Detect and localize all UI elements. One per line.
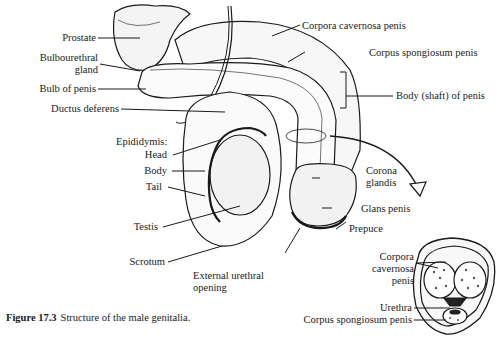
label-prepuce: Prepuce [349,223,383,235]
label-bulbourethral-line2: gland [40,64,98,76]
label-corona-line2: glandis [366,177,397,189]
label-epididymis: Epididymis: [116,136,167,148]
label-corona-line1: Corona [366,165,397,177]
label-xs-corpora-line1: Corpora [372,251,414,263]
label-ductus-deferens: Ductus deferens [51,103,119,115]
label-corpus-spongiosum-penis: Corpus spongiosum penis [369,47,478,59]
label-xs-corpus-spongiosum-penis: Corpus spongiosum penis [303,314,412,326]
label-bulbourethral-gland: Bulbourethral gland [40,52,98,76]
label-bulb-of-penis: Bulb of penis [39,83,96,95]
testis-shape [210,135,270,215]
label-xs-corpora-cavernosa-penis: Corpora cavernosa penis [372,251,414,287]
label-external-urethral-line2: opening [193,282,264,294]
label-scrotum: Scrotum [129,256,165,268]
label-testis: Testis [134,221,158,233]
label-external-urethral-opening: External urethral opening [193,270,264,294]
label-epididymis-tail: Tail [146,181,162,193]
label-external-urethral-line1: External urethral [193,270,264,282]
label-corpora-cavernosa-penis: Corpora cavernosa penis [302,20,406,32]
label-epididymis-head: Head [145,149,167,161]
label-glans-penis: Glans penis [361,203,410,215]
label-xs-corpora-line2: cavernosa [372,263,414,275]
label-prostate: Prostate [62,32,96,44]
label-xs-urethra: Urethra [380,302,412,314]
label-bulbourethral-line1: Bulbourethral [40,52,98,64]
figure-number: Figure 17.3 [6,312,57,323]
figure-caption: Figure 17.3Structure of the male genital… [6,312,190,323]
label-xs-corpora-line3: penis [372,275,414,287]
label-corona-glandis: Corona glandis [366,165,397,189]
figure-caption-text: Structure of the male genitalia. [61,312,191,323]
label-epididymis-body: Body [144,165,167,177]
label-body-shaft-of-penis: Body (shaft) of penis [396,90,485,102]
